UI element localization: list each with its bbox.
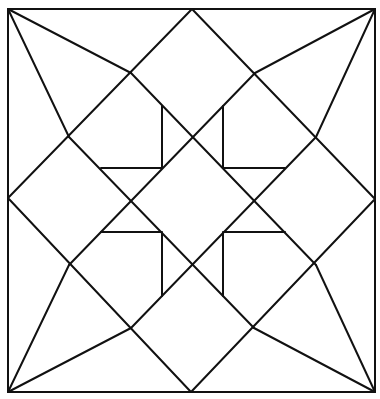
outer-square bbox=[8, 9, 375, 392]
kite-line-tr-b bbox=[316, 9, 375, 137]
large-diamond bbox=[8, 9, 375, 392]
quilt-pattern-svg bbox=[0, 0, 380, 399]
quilt-pattern-figure bbox=[0, 0, 380, 399]
kite-line-tl-b bbox=[8, 9, 69, 137]
inner-corner-br bbox=[223, 232, 285, 296]
kite-line-tl-a bbox=[8, 9, 131, 73]
inner-corner-tl bbox=[101, 106, 162, 168]
kite-line-br-a bbox=[316, 265, 375, 392]
inner-corner-bl bbox=[101, 232, 162, 296]
kite-line-bl-a bbox=[8, 265, 69, 392]
kite-line-bl-b bbox=[8, 328, 131, 392]
kite-line-tr-a bbox=[255, 9, 375, 73]
inner-corner-tr bbox=[223, 106, 285, 168]
kite-line-br-b bbox=[254, 328, 375, 392]
